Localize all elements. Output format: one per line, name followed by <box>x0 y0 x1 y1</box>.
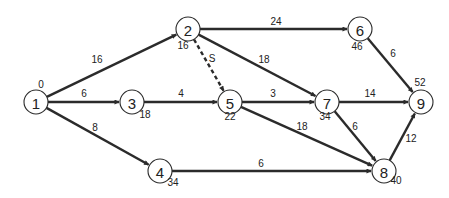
edge-6-9 <box>368 38 413 92</box>
edge-1-4 <box>46 108 148 165</box>
node-time-9: 52 <box>414 77 426 88</box>
node-label: 6 <box>356 22 364 39</box>
node-label: 5 <box>226 95 234 112</box>
node-label: 8 <box>380 164 388 181</box>
node-time-1: 0 <box>38 79 44 90</box>
edge-5-8 <box>241 107 372 166</box>
node-time-7: 34 <box>319 111 331 122</box>
node-label: 9 <box>417 95 425 112</box>
edge-weight-5-8: 18 <box>296 121 308 132</box>
node-time-8: 40 <box>390 175 402 186</box>
network-diagram-svg: 166824S1843186614612 123456789 016183422… <box>0 0 449 198</box>
edge-weight-3-5: 4 <box>178 88 184 99</box>
node-label: 1 <box>32 95 40 112</box>
edge-weight-7-8: 6 <box>352 121 358 132</box>
node-1: 1 <box>24 90 48 114</box>
edge-weight-6-9: 6 <box>390 48 396 59</box>
network-diagram: 166824S1843186614612 123456789 016183422… <box>0 0 449 198</box>
edge-2-5 <box>194 39 224 90</box>
node-time-3: 18 <box>139 109 151 120</box>
edge-7-8 <box>335 111 376 161</box>
node-time-4: 34 <box>167 177 179 188</box>
edge-weight-1-2: 16 <box>91 54 103 65</box>
node-6: 6 <box>348 17 372 41</box>
node-label: 3 <box>128 95 136 112</box>
edge-weight-2-7: 18 <box>258 54 270 65</box>
node-time-5: 22 <box>224 111 236 122</box>
node-label: 7 <box>323 95 331 112</box>
node-label: 2 <box>184 22 192 39</box>
edge-2-7 <box>199 35 316 96</box>
node-label: 4 <box>156 164 164 181</box>
edge-weight-5-7: 3 <box>270 88 276 99</box>
edge-weight-4-8: 6 <box>258 158 264 169</box>
edge-1-2 <box>47 35 176 97</box>
node-time-2: 16 <box>177 40 189 51</box>
edge-weight-1-4: 8 <box>92 122 98 133</box>
edge-weight-8-9: 12 <box>405 133 417 144</box>
edge-weight-7-9: 14 <box>364 88 376 99</box>
node-time-6: 46 <box>351 41 363 52</box>
edge-weight-2-6: 24 <box>270 16 282 27</box>
edge-weight-2-5: S <box>209 53 216 64</box>
node-2: 2 <box>176 17 200 41</box>
node-9: 9 <box>409 90 433 114</box>
edge-weight-1-3: 6 <box>81 88 87 99</box>
